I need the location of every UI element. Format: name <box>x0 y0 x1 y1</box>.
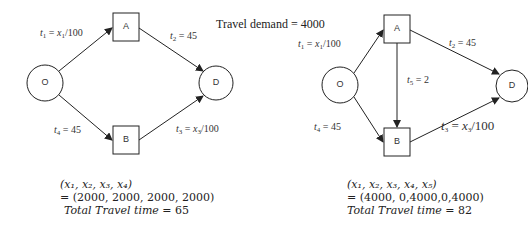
right-t3-label: t3 = x3/100 <box>441 118 494 134</box>
left-label-d: D <box>208 77 224 87</box>
right-result: (x₁, x₂, x₃, x₄, x₅) = (4000, 0,4000,0,4… <box>347 178 484 217</box>
right-t1-label: t1 = x1/100 <box>298 38 341 51</box>
left-t3-label: t3 = x3/100 <box>176 123 219 136</box>
travel-demand-title: Travel demand = 4000 <box>216 17 325 32</box>
left-label-b: B <box>113 134 139 144</box>
right-label-b: B <box>384 136 410 146</box>
left-flow-values: = (2000, 2000, 2000, 2000) <box>60 191 214 204</box>
right-t4-label: t4 = 45 <box>314 121 341 134</box>
right-t2-label: t2 = 45 <box>449 37 476 50</box>
left-t1-label: t1 = x1/100 <box>40 27 83 40</box>
left-label-a: A <box>113 21 139 31</box>
right-label-o: O <box>332 79 348 89</box>
left-label-o: O <box>37 77 53 87</box>
left-flow-vector: (x₁, x₂, x₃, x₄) <box>60 178 214 191</box>
left-result: (x₁, x₂, x₃, x₄) = (2000, 2000, 2000, 20… <box>60 178 214 217</box>
right-link-4 <box>354 97 383 142</box>
right-link-1 <box>354 30 383 73</box>
left-t2-label: t2 = 45 <box>170 30 197 43</box>
right-label-a: A <box>384 23 410 33</box>
right-flow-values: = (4000, 0,4000,0,4000) <box>347 191 484 204</box>
right-t5-label: t5 = 2 <box>407 74 429 87</box>
right-label-d: D <box>504 80 520 90</box>
left-total-travel-time: Total Travel time = 65 <box>60 204 214 217</box>
right-flow-vector: (x₁, x₂, x₃, x₄, x₅) <box>347 178 484 191</box>
left-t4-label: t4 = 45 <box>54 124 81 137</box>
right-total-travel-time: Total Travel time = 82 <box>347 204 484 217</box>
